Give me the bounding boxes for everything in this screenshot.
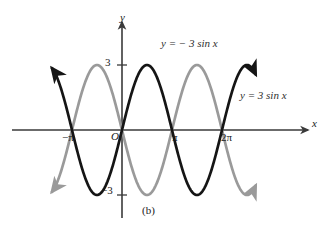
y-axis-label: y xyxy=(120,12,125,23)
x-tick-label-2pi: 2π xyxy=(221,132,232,143)
curve-label-positive-sine: y = 3 sin x xyxy=(240,90,287,101)
x-tick-label-pi: π xyxy=(172,132,178,143)
y-tick-label-3: 3 xyxy=(105,57,111,68)
sine-curves-plot xyxy=(0,0,330,234)
figure-container: y = − 3 sin x y = 3 sin x x y O −π π 2π … xyxy=(0,0,330,234)
curve-label-negative-sine: y = − 3 sin x xyxy=(161,38,218,49)
origin-label: O xyxy=(111,131,119,142)
y-tick-label-neg3: −3 xyxy=(101,185,113,196)
x-tick-label-neg-pi: −π xyxy=(62,132,74,143)
figure-caption: (b) xyxy=(142,205,155,216)
x-axis-label: x xyxy=(312,118,317,129)
